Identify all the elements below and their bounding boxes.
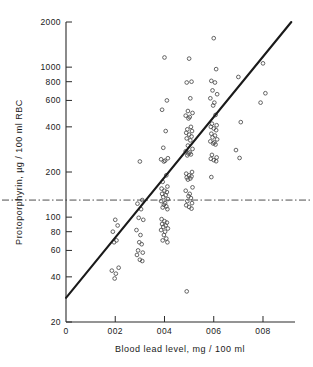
x-axis-title: Blood lead level, mg / 100 ml [115,344,245,354]
data-point [211,89,215,93]
data-point [113,277,117,281]
data-point [209,79,213,83]
data-point [166,240,170,244]
data-point [209,132,213,136]
data-point [190,80,194,84]
data-point [191,147,195,151]
data-point [161,146,165,150]
data-point [138,160,142,164]
data-point [209,175,213,179]
x-tick-label: 008 [255,326,270,336]
data-point [185,137,189,141]
data-point [114,272,118,276]
data-point [212,36,216,40]
data-point [159,228,163,232]
data-points-layer [110,36,267,293]
data-point [141,218,145,222]
data-point [139,233,143,237]
data-point [113,218,117,222]
data-point [215,138,219,142]
y-tick-label: 80 [51,227,61,237]
y-tick-label: 400 [46,122,61,132]
data-point [264,91,268,95]
data-point [111,230,115,234]
y-tick-label: 20 [51,317,61,327]
data-point [215,123,219,127]
y-tick-label: 40 [51,272,61,282]
data-point [190,129,194,133]
data-point [160,108,164,112]
data-point [189,125,193,129]
data-point [191,111,195,115]
data-point [213,81,217,85]
x-tick-label: 004 [157,326,172,336]
data-point [259,101,263,105]
data-point [184,189,188,193]
data-point [188,96,192,100]
data-point [135,253,139,257]
axis-frame [66,22,295,322]
y-tick-label: 600 [46,95,61,105]
data-point [210,153,214,157]
data-point [164,129,168,133]
data-point [239,120,243,124]
data-point [208,96,212,100]
data-point [136,249,140,253]
data-point [261,62,265,66]
data-point [190,201,194,205]
data-point [166,227,170,231]
data-point [186,109,190,113]
data-point [190,170,194,174]
data-point [137,216,141,220]
y-tick-label: 1000 [40,62,61,72]
data-point [166,185,170,189]
data-point [187,57,191,61]
data-point [116,224,120,228]
scatter-plot: 2040608010020040060080010002000 00020040… [0,0,313,367]
data-point [161,239,165,243]
data-point [110,269,114,273]
data-point [163,56,167,60]
data-point [237,75,241,79]
data-point [188,139,192,143]
data-point [215,92,219,96]
x-tick-label: 002 [108,326,123,336]
y-tick-label: 200 [46,167,61,177]
data-point [117,266,121,270]
data-point [191,186,195,190]
data-point [214,67,218,71]
y-tick-label: 2000 [40,17,61,27]
data-point [162,233,166,237]
data-point [238,156,242,160]
y-axis-ticks: 2040608010020040060080010002000 [40,17,72,327]
x-tick-label: 006 [206,326,221,336]
chart-figure: 2040608010020040060080010002000 00020040… [0,0,313,367]
y-tick-label: 800 [46,77,61,87]
data-point [185,290,189,294]
data-point [234,148,238,152]
data-point [164,237,168,241]
data-point [185,81,189,85]
y-tick-label: 100 [46,212,61,222]
x-axis-ticks: 0002004006008 [63,316,270,336]
data-point [165,99,169,103]
x-tick-label: 0 [63,326,68,336]
data-point [135,228,139,232]
data-point [141,251,145,255]
data-point [136,202,140,206]
regression-line [66,22,291,298]
y-axis-title: Protoporphyrin, µg / 100 ml RBC [14,99,24,245]
y-tick-label: 60 [51,245,61,255]
